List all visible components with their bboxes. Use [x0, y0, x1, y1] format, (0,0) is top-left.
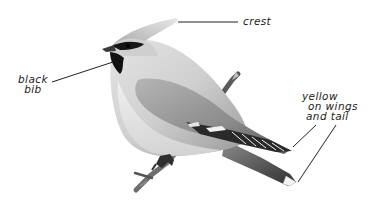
wing-leader-line — [293, 125, 316, 147]
label-yellow-line3: and tail — [302, 111, 358, 121]
bird-diagram: crest black bib yellow on wings and tail — [0, 0, 384, 206]
bib-leader-line — [52, 62, 113, 82]
label-crest: crest — [243, 16, 271, 26]
tail-leader-line — [298, 125, 336, 182]
label-black-bib-line2: bib — [18, 84, 48, 94]
label-crest-text: crest — [243, 16, 271, 26]
label-black-bib: black bib — [18, 74, 48, 94]
label-yellow-wings-tail: yellow on wings and tail — [302, 91, 358, 121]
